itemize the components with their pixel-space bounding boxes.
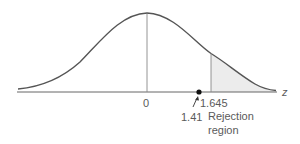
pointer-arrowhead (195, 96, 199, 101)
test-statistic-dot (196, 89, 201, 94)
test-statistic-label: 1.41 (181, 111, 202, 123)
normal-curve-diagram (0, 0, 300, 144)
rejection-region-label-line1: Rejection (208, 110, 254, 122)
critical-value-label: 1.645 (200, 97, 228, 109)
center-label: 0 (143, 97, 149, 109)
rejection-region-label-line2: region (208, 124, 239, 136)
axis-label-z: z (282, 86, 288, 98)
